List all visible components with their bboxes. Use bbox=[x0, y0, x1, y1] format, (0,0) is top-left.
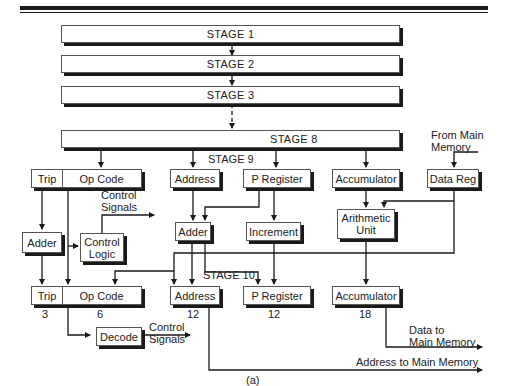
stage-10-label: STAGE 10 bbox=[203, 269, 255, 281]
control-logic: Control Logic bbox=[80, 233, 124, 262]
stage-1-bar: STAGE 1 bbox=[61, 25, 400, 43]
increment-unit: Increment bbox=[246, 222, 301, 241]
stage-2-bar: STAGE 2 bbox=[61, 55, 400, 73]
stage-9-label: STAGE 9 bbox=[208, 153, 254, 165]
bottom-address-label: Address bbox=[175, 290, 215, 302]
data-to-memory-line1: Data to bbox=[409, 324, 476, 336]
bottom-address-register: Address bbox=[170, 286, 220, 305]
accumulator-bit-width: 18 bbox=[359, 308, 371, 320]
stage-3-label: STAGE 3 bbox=[207, 89, 255, 101]
bottom-trip-opcode-register: Trip Op Code bbox=[31, 286, 142, 305]
bottom-p-register-label: P Register bbox=[251, 290, 302, 302]
top-address-label: Address bbox=[175, 173, 215, 185]
bottom-opcode-label: Op Code bbox=[62, 290, 141, 302]
from-main-memory-label: From Main Memory bbox=[431, 129, 484, 153]
bottom-p-register: P Register bbox=[243, 286, 311, 305]
stage-2-label: STAGE 2 bbox=[207, 58, 255, 70]
stage-3-bar: STAGE 3 bbox=[61, 86, 400, 104]
top-accumulator-label: Accumulator bbox=[335, 173, 396, 185]
bottom-accumulator-register: Accumulator bbox=[332, 286, 400, 305]
top-accumulator-register: Accumulator bbox=[332, 169, 400, 188]
top-p-register: P Register bbox=[243, 169, 311, 188]
data-reg: Data Reg bbox=[427, 169, 479, 188]
bottom-accumulator-label: Accumulator bbox=[335, 290, 396, 302]
address-bit-width: 12 bbox=[187, 308, 199, 320]
center-adder-label: Adder bbox=[178, 226, 207, 238]
left-adder: Adder bbox=[22, 232, 62, 253]
control-signals-top-line2: Signals bbox=[101, 201, 137, 213]
trip-bit-width: 3 bbox=[42, 308, 48, 320]
top-opcode-label: Op Code bbox=[62, 173, 141, 185]
opcode-bit-width: 6 bbox=[97, 308, 103, 320]
data-to-main-memory-label: Data to Main Memory bbox=[409, 324, 476, 348]
stage-8-bar: STAGE 8 bbox=[61, 130, 400, 148]
top-trip-label: Trip bbox=[32, 173, 62, 185]
stage-8-label: STAGE 8 bbox=[270, 133, 318, 145]
control-signals-bottom-label: Control Signals bbox=[149, 321, 185, 345]
from-main-memory-line1: From Main bbox=[431, 129, 484, 141]
p-register-bit-width: 12 bbox=[268, 308, 280, 320]
data-reg-label: Data Reg bbox=[430, 173, 476, 185]
control-logic-label: Control Logic bbox=[81, 236, 123, 260]
center-adder: Adder bbox=[175, 222, 211, 241]
data-to-memory-line2: Main Memory bbox=[409, 336, 476, 348]
figure-caption: (a) bbox=[246, 374, 259, 386]
arithmetic-unit-label: Arithmetic Unit bbox=[338, 212, 394, 236]
top-address-register: Address bbox=[170, 169, 220, 188]
stage-1-label: STAGE 1 bbox=[207, 28, 255, 40]
control-signals-bottom-line1: Control bbox=[149, 321, 185, 333]
control-signals-bottom-line2: Signals bbox=[149, 333, 185, 345]
address-to-main-memory-label: Address to Main Memory bbox=[356, 356, 478, 368]
left-adder-label: Adder bbox=[27, 237, 56, 249]
bottom-trip-label: Trip bbox=[32, 290, 62, 302]
arithmetic-unit: Arithmetic Unit bbox=[337, 209, 395, 239]
decode-label: Decode bbox=[100, 331, 138, 343]
control-signals-top-line1: Control bbox=[101, 189, 137, 201]
top-p-register-label: P Register bbox=[251, 173, 302, 185]
control-signals-top-label: Control Signals bbox=[101, 189, 137, 213]
from-main-memory-line2: Memory bbox=[431, 141, 484, 153]
top-trip-opcode-register: Trip Op Code bbox=[31, 169, 142, 188]
decode-unit: Decode bbox=[96, 327, 142, 346]
increment-label: Increment bbox=[249, 226, 298, 238]
